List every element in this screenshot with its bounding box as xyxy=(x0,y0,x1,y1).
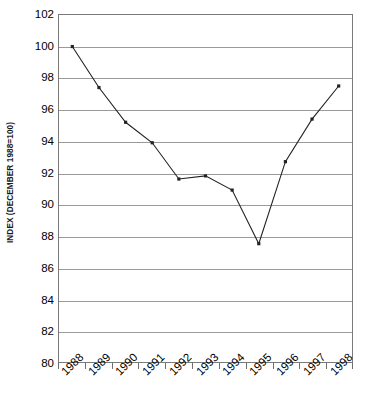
y-tick-label: 100 xyxy=(28,40,54,52)
y-tick-label: 86 xyxy=(28,262,54,274)
y-tick-label: 94 xyxy=(28,135,54,147)
data-point-marker xyxy=(310,118,313,121)
y-tick-label: 96 xyxy=(28,103,54,115)
y-tick-label: 92 xyxy=(28,167,54,179)
y-tick-label: 82 xyxy=(28,325,54,337)
plot-area xyxy=(58,14,353,363)
series-polyline xyxy=(72,47,338,244)
line-chart: INDEX (DECEMBER 1988=100) 80828486889092… xyxy=(0,0,370,410)
data-point-marker xyxy=(204,174,207,177)
x-axis-tick-labels: 1988198919901991199219931994199519961997… xyxy=(58,369,353,410)
y-tick-label: 88 xyxy=(28,230,54,242)
y-axis-title-text: INDEX (DECEMBER 1988=100) xyxy=(7,122,16,243)
data-point-marker xyxy=(337,84,340,87)
y-tick-label: 84 xyxy=(28,294,54,306)
data-series-line xyxy=(59,15,352,362)
data-point-marker xyxy=(257,242,260,245)
y-axis-title: INDEX (DECEMBER 1988=100) xyxy=(0,0,22,365)
data-point-marker xyxy=(97,86,100,89)
y-tick-label: 80 xyxy=(28,357,54,369)
data-point-marker xyxy=(151,141,154,144)
y-tick-label: 90 xyxy=(28,198,54,210)
y-tick-label: 98 xyxy=(28,71,54,83)
data-point-marker xyxy=(177,177,180,180)
y-axis-tick-labels: 80828486889092949698100102 xyxy=(22,0,54,410)
data-point-marker xyxy=(231,188,234,191)
y-tick-label: 102 xyxy=(28,8,54,20)
data-point-marker xyxy=(124,121,127,124)
data-point-marker xyxy=(71,45,74,48)
data-point-marker xyxy=(284,160,287,163)
